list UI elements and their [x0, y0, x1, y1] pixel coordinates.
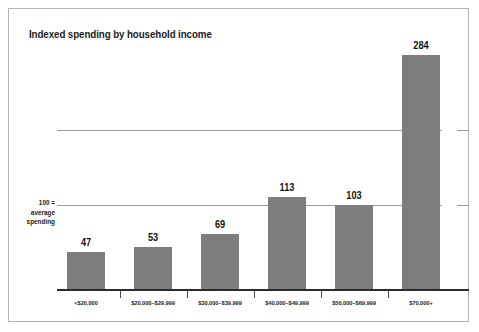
average-reference-line-1: 100 = [23, 198, 55, 208]
x-axis-label-20000-29999: $20,000–$29,999 [123, 299, 184, 306]
gridline-100-tick [457, 205, 469, 206]
x-axis-label-40000-49999: $40,000–$49,999 [257, 299, 318, 306]
axis-tick-5 [388, 291, 389, 298]
average-reference-annotation: 100 = average spending [23, 198, 55, 227]
bar-70000-plus[interactable] [402, 55, 440, 291]
bar-20000-29999[interactable] [134, 247, 172, 291]
bar-lt-20000[interactable] [67, 252, 105, 291]
plot-area: 47 53 69 113 103 284 <$20,000 $20,000–$2… [57, 49, 469, 291]
x-axis-label-30000-39999: $30,000–$39,999 [190, 299, 251, 306]
gridline-200-tick [457, 130, 469, 131]
gridline-200 [57, 130, 442, 131]
bar-value-70000-plus: 284 [404, 40, 439, 51]
chart-frame: Indexed spending by household income 100… [8, 8, 469, 322]
axis-tick-1 [120, 291, 121, 298]
bar-50000-69999[interactable] [335, 205, 373, 291]
average-reference-line-2: average [23, 208, 55, 218]
chart-title: Indexed spending by household income [29, 28, 212, 40]
x-axis-label-lt-20000: <$20,000 [56, 299, 117, 306]
bar-value-lt-20000: 47 [69, 237, 104, 248]
x-axis [57, 289, 469, 291]
bar-40000-49999[interactable] [268, 197, 306, 291]
average-reference-line-3: spending [23, 217, 55, 227]
axis-tick-4 [321, 291, 322, 298]
bar-30000-39999[interactable] [201, 234, 239, 291]
x-axis-label-70000-plus: $70,000+ [391, 299, 452, 306]
x-axis-label-50000-69999: $50,000–$69,999 [324, 299, 385, 306]
bar-value-40000-49999: 113 [270, 182, 305, 193]
bar-value-30000-39999: 69 [203, 219, 238, 230]
axis-tick-3 [254, 291, 255, 298]
bar-value-20000-29999: 53 [136, 232, 171, 243]
bar-value-50000-69999: 103 [337, 190, 372, 201]
gridline-100 [57, 205, 442, 206]
axis-tick-2 [187, 291, 188, 298]
chart-figure: Indexed spending by household income 100… [0, 0, 479, 332]
